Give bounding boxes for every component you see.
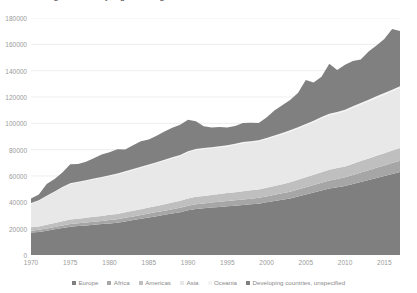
x-axis-tick-label: 1970 [24, 259, 38, 267]
y-axis-tick-label: 0 [23, 252, 27, 259]
y-axis-tick-label: 160000 [5, 41, 27, 48]
legend-item[interactable]: Asia [180, 279, 199, 286]
y-axis-tick-label: 180000 [5, 15, 27, 22]
y-axis-tick-label: 20000 [9, 225, 27, 232]
legend-swatch-icon [246, 281, 250, 285]
y-axis-tick-label: 40000 [9, 199, 27, 206]
x-axis-tick-label: 1985 [142, 259, 156, 267]
chart-legend: EuropeAfricaAmericasAsiaOceaniaDevelopin… [0, 279, 417, 286]
y-axis-tick-label: 140000 [5, 67, 27, 74]
y-axis-tick-label: 120000 [5, 94, 27, 101]
legend-item-label: Asia [186, 279, 198, 286]
legend-item[interactable]: Americas [139, 279, 171, 286]
chart-title: Migrant stock by region of origin [44, 0, 364, 2]
y-axis: 0200004000060000800001000001200001400001… [0, 0, 31, 293]
x-axis-tick-label: 1990 [181, 259, 195, 267]
x-axis-tick-label: 2005 [299, 259, 313, 267]
x-axis-tick-label: 1980 [102, 259, 116, 267]
legend-item[interactable]: Africa [107, 279, 129, 286]
legend-swatch-icon [208, 281, 212, 285]
plot-area [31, 18, 400, 255]
x-axis-tick-label: 1975 [63, 259, 77, 267]
x-axis-tick-label: 2010 [338, 259, 352, 267]
area-series-group [31, 18, 400, 255]
x-axis-tick-label: 2000 [259, 259, 273, 267]
stacked-area-chart: Migrant stock by region of origin 020000… [0, 0, 417, 293]
legend-swatch-icon [107, 281, 111, 285]
x-axis-tick-label: 2015 [377, 259, 391, 267]
legend-swatch-icon [72, 281, 76, 285]
y-axis-tick-label: 100000 [5, 120, 27, 127]
legend-item[interactable]: Developing countries, unspecified [246, 279, 345, 286]
legend-swatch-icon [139, 281, 143, 285]
legend-item[interactable]: Europe [72, 279, 98, 286]
x-axis-tick-label: 1995 [220, 259, 234, 267]
legend-item-label: Developing countries, unspecified [253, 279, 346, 286]
legend-item-label: Europe [78, 279, 98, 286]
legend-swatch-icon [180, 281, 184, 285]
legend-item-label: Oceania [214, 279, 237, 286]
y-axis-tick-label: 60000 [9, 173, 27, 180]
legend-item[interactable]: Oceania [208, 279, 238, 286]
x-axis: 1970197519801985199019952000200520102015 [0, 259, 417, 271]
y-axis-tick-label: 80000 [9, 146, 27, 153]
legend-item-label: Americas [145, 279, 171, 286]
legend-item-label: Africa [114, 279, 130, 286]
